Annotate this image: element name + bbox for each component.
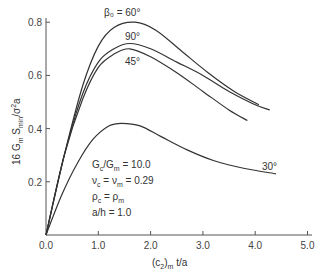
parameter-annotations: Gc/Gm = 10.0 νc = νm = 0.29 ρc = ρm a/h …: [92, 159, 154, 218]
curve-beta-90: [46, 44, 270, 236]
curves: [46, 22, 276, 235]
annotation-density: ρc = ρm: [92, 191, 124, 204]
curve-label-90: 90°: [125, 31, 140, 42]
annotation-aspect-ratio: a/h = 1.0: [92, 207, 132, 218]
curve-beta-45: [46, 49, 247, 235]
y-tick-label: 0.4: [28, 124, 42, 135]
x-tick-label: 4.0: [248, 240, 262, 251]
x-ticks: 0.01.02.03.04.05.0: [39, 231, 315, 251]
curve-beta-60: [46, 22, 259, 235]
y-ticks: 0.20.40.60.8: [28, 17, 50, 188]
x-tick-label: 2.0: [144, 240, 158, 251]
y-tick-label: 0.6: [28, 70, 42, 81]
axes: 0.20.40.60.8 0.01.02.03.04.05.0: [28, 17, 315, 251]
annotation-shear-modulus-ratio: Gc/Gm = 10.0: [92, 159, 151, 172]
curve-label-30: 30°: [262, 161, 277, 172]
y-axis-label: 16 Gm Smin/σ2a: [10, 98, 24, 165]
annotation-poisson-ratio: νc = νm = 0.29: [92, 175, 154, 188]
y-tick-label: 0.8: [28, 17, 42, 28]
curve-label-45: 45°: [125, 56, 140, 67]
x-axis-label: (c2)m t/a: [152, 257, 188, 270]
x-tick-label: 3.0: [196, 240, 210, 251]
chart-canvas: 0.20.40.60.8 0.01.02.03.04.05.0 16 Gm Sm…: [0, 0, 328, 273]
y-tick-label: 0.2: [28, 177, 42, 188]
x-tick-label: 1.0: [91, 240, 105, 251]
x-tick-label: 0.0: [39, 240, 53, 251]
curve-beta-30: [46, 123, 276, 235]
x-tick-label: 5.0: [301, 240, 315, 251]
curve-label-60: β₀ = 60°: [104, 7, 140, 18]
